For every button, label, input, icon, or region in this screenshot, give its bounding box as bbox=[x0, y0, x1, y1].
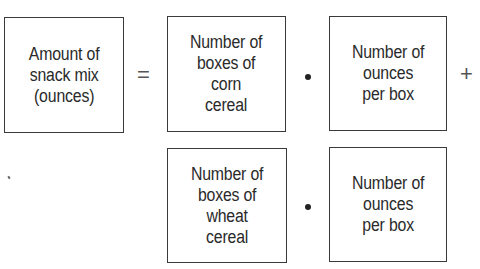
snack-mix-amount-box: Amount of snack mix (ounces) bbox=[4, 17, 124, 133]
wheat-ounces-per-box-label: Number of ounces per box bbox=[352, 173, 424, 236]
snack-mix-amount-label: Amount of snack mix (ounces) bbox=[29, 44, 100, 107]
corn-ounces-per-box-box: Number of ounces per box bbox=[329, 16, 447, 131]
plus-sign: + bbox=[460, 63, 473, 85]
multiply-dot-icon bbox=[305, 74, 311, 80]
corn-cereal-boxes-box: Number of boxes of corn cereal bbox=[167, 16, 286, 132]
corn-ounces-per-box-label: Number of ounces per box bbox=[352, 42, 424, 105]
equals-sign: = bbox=[137, 64, 150, 86]
multiply-dot-icon bbox=[305, 204, 311, 210]
corn-cereal-boxes-label: Number of boxes of corn cereal bbox=[190, 32, 262, 116]
wheat-cereal-boxes-label: Number of boxes of wheat cereal bbox=[191, 164, 263, 248]
wheat-cereal-boxes-box: Number of boxes of wheat cereal bbox=[167, 148, 287, 263]
wheat-ounces-per-box-box: Number of ounces per box bbox=[329, 147, 447, 262]
stray-mark bbox=[7, 176, 10, 180]
